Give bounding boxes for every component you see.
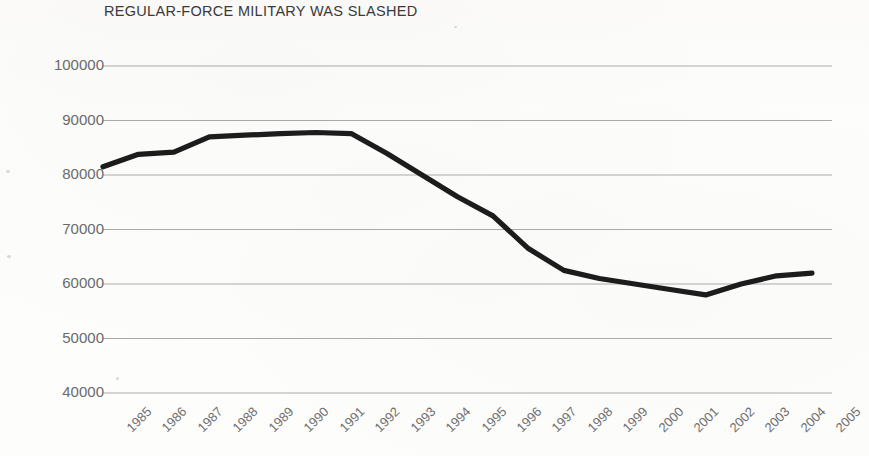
- gridlines: [103, 66, 832, 393]
- scan-speck: [454, 26, 457, 28]
- series-line: [103, 132, 812, 294]
- line-chart-plot: [0, 0, 869, 456]
- chart-container: REGULAR-FORCE MILITARY WAS SLASHED 10000…: [0, 0, 869, 456]
- data-series-group: [103, 132, 812, 294]
- scan-speck: [7, 255, 11, 258]
- scan-speck: [6, 170, 10, 173]
- scan-speck: [116, 377, 119, 380]
